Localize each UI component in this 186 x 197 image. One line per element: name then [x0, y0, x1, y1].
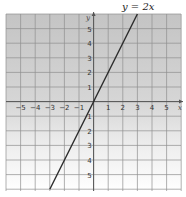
x-axis-label: x: [178, 104, 182, 112]
x-tick-label: −2: [59, 104, 69, 112]
y-tick-label: 3: [87, 55, 91, 63]
x-tick-label: −5: [15, 104, 25, 112]
y-tick-label: 2: [87, 69, 91, 77]
y-tick-label: 4: [87, 157, 92, 165]
y-tick-label: 3: [87, 142, 91, 150]
x-tick-label: −3: [45, 104, 55, 112]
y-tick-label: 1: [87, 84, 91, 92]
x-tick-label: −4: [30, 104, 41, 112]
y-tick-label: 5: [87, 172, 91, 180]
x-tick-label: 5: [164, 104, 168, 112]
y-tick-label: 5: [87, 26, 91, 34]
function-label: y = 2x: [121, 1, 155, 12]
x-tick-label: 1: [106, 104, 110, 112]
x-tick-label: −1: [74, 104, 84, 112]
y-tick-label: 2: [87, 128, 91, 136]
x-tick-label: 2: [121, 104, 125, 112]
x-tick-label: 4: [150, 104, 155, 112]
graph: −5−4−3−2−1123455432112345 y = 2x y x: [0, 0, 186, 197]
y-tick-label: 4: [87, 40, 92, 48]
x-tick-label: 3: [135, 104, 139, 112]
